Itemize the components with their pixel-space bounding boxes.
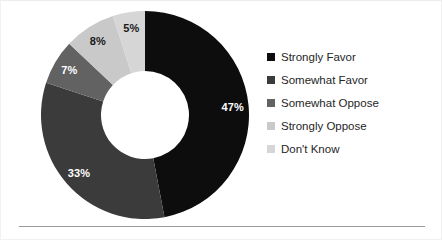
legend-item-label: Somewhat Oppose (281, 97, 379, 109)
legend-item[interactable]: Don't Know (267, 137, 433, 160)
legend-swatch-icon (267, 99, 275, 107)
legend-item[interactable]: Somewhat Oppose (267, 91, 433, 114)
bottom-divider (19, 226, 425, 227)
legend-swatch-icon (267, 145, 275, 153)
legend-swatch-icon (267, 53, 275, 61)
legend-swatch-icon (267, 122, 275, 130)
legend-swatch-icon (267, 76, 275, 84)
legend-item-label: Strongly Favor (281, 51, 356, 63)
legend-item[interactable]: Strongly Favor (267, 45, 433, 68)
donut-svg (41, 11, 249, 219)
donut-chart: 47%33%7%8%5% (41, 11, 249, 219)
donut-slice-group (41, 11, 249, 219)
legend-item-label: Strongly Oppose (281, 120, 367, 132)
legend-item[interactable]: Somewhat Favor (267, 68, 433, 91)
donut-slice[interactable] (41, 83, 164, 219)
chart-canvas: 47%33%7%8%5% Strongly FavorSomewhat Favo… (0, 0, 442, 240)
legend-item-label: Somewhat Favor (281, 74, 368, 86)
donut-slice[interactable] (145, 11, 249, 217)
legend-item[interactable]: Strongly Oppose (267, 114, 433, 137)
chart-legend: Strongly FavorSomewhat FavorSomewhat Opp… (267, 45, 433, 160)
legend-item-label: Don't Know (281, 143, 339, 155)
